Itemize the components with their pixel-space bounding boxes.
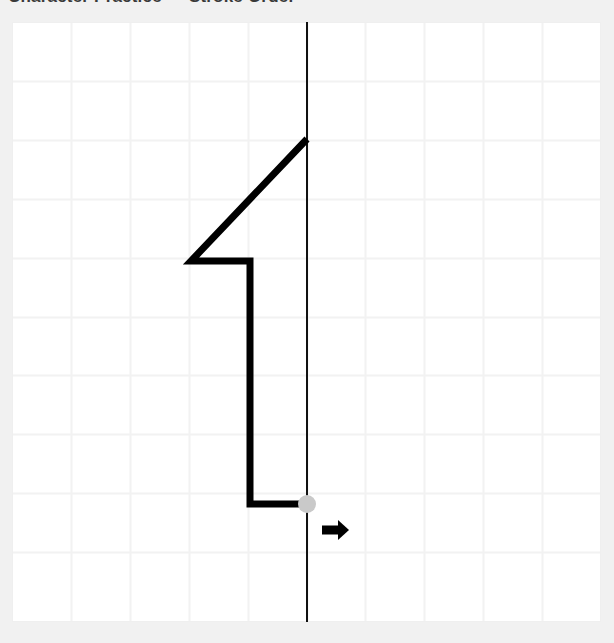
grid-lines <box>12 22 601 622</box>
header-strip: Character Practice — Stroke Order <box>0 0 614 12</box>
practice-grid-canvas[interactable] <box>12 22 601 622</box>
page-title: Character Practice — Stroke Order <box>8 0 295 7</box>
handwriting-practice-app: Character Practice — Stroke Order <box>0 0 614 643</box>
